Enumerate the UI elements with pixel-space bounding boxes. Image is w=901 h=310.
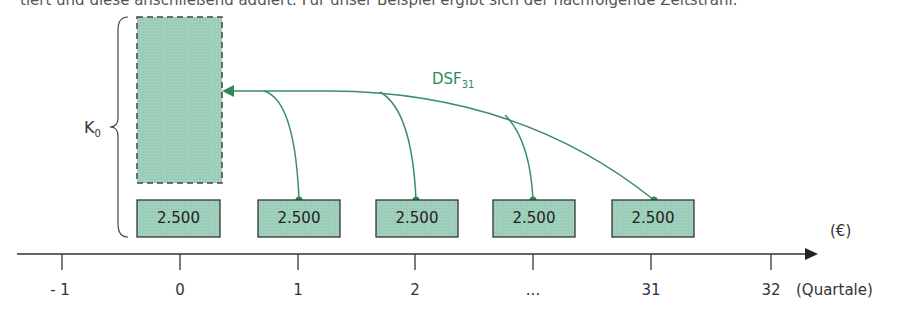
axis-tick-label: 0	[175, 281, 185, 299]
present-value-label: K0	[84, 118, 101, 139]
arrowhead-left	[222, 85, 234, 97]
payment-value: 2.500	[612, 201, 694, 236]
discount-factor-label: DSF31	[432, 70, 474, 90]
axis-tick-label: 1	[293, 281, 303, 299]
axis-tick-label: 31	[641, 281, 660, 299]
timeline-diagram	[0, 0, 901, 310]
payment-value: 2.500	[376, 201, 458, 236]
present-value-box	[137, 17, 222, 183]
payment-value: 2.500	[137, 201, 220, 236]
discount-arrow	[232, 91, 654, 200]
axis-unit-label: (Quartale)	[796, 281, 873, 299]
axis-tick-label: 2	[410, 281, 420, 299]
payment-value: 2.500	[493, 201, 575, 236]
axis-tick-label: - 1	[50, 281, 70, 299]
payment-value: 2.500	[258, 201, 340, 236]
axis-tick-label: ...	[526, 281, 540, 299]
value-unit-label: (€)	[830, 222, 851, 240]
axis-tick-label: 32	[761, 281, 780, 299]
axis-arrowhead	[805, 248, 818, 260]
brace	[110, 17, 128, 237]
